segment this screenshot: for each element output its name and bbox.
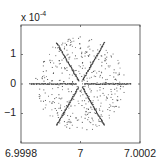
- scatter-chart: x 10-4 1 0 −1 6.9998 7 7.0002: [0, 0, 165, 165]
- x-tick-label-center: 7: [78, 147, 84, 159]
- y-tick-label-0: 0: [10, 77, 16, 89]
- y-tick-label-1: 1: [10, 47, 16, 59]
- y-tick-label-neg1: −1: [4, 106, 16, 118]
- y-exponent-label: x 10-4: [21, 10, 46, 23]
- x-tick-label-left: 6.9998: [5, 147, 37, 159]
- x-tick-label-right: 7.0002: [124, 147, 156, 159]
